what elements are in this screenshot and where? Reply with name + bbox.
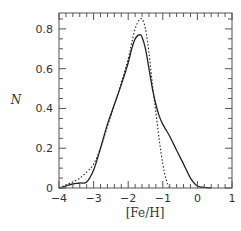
- axes-frame: [59, 13, 232, 188]
- x-tick-label: −3: [85, 192, 101, 205]
- y-axis-label: N: [10, 93, 22, 107]
- y-tick-label: 0.2: [36, 142, 54, 155]
- plot-area: [59, 18, 211, 188]
- x-tick-labels: −4−3−2−101: [51, 192, 236, 205]
- x-tick-label: 0: [194, 192, 201, 205]
- x-axis-label: [Fe/H]: [126, 206, 165, 220]
- y-tick-label: 0.4: [36, 102, 54, 115]
- x-tick-label: −2: [120, 192, 136, 205]
- chart: −4−3−2−101 00.20.40.60.8 [Fe/H] N: [0, 0, 241, 231]
- y-tick-label: 0.8: [36, 23, 54, 36]
- x-tick-label: 1: [229, 192, 236, 205]
- tick-marks: [59, 13, 232, 188]
- y-tick-labels: 00.20.40.60.8: [36, 23, 54, 195]
- y-tick-label: 0.6: [36, 63, 54, 76]
- x-tick-label: −1: [155, 192, 171, 205]
- y-tick-label: 0: [46, 182, 53, 195]
- series-solid-line: [59, 34, 211, 188]
- x-tick-label: −4: [51, 192, 67, 205]
